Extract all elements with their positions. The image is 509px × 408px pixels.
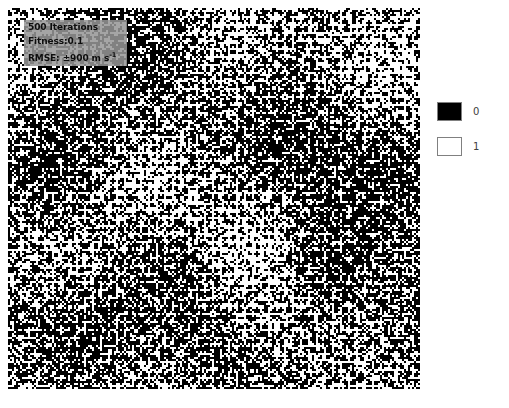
figure-root: 500 Iterations Fitness:0.1 RMSE: ±900 m … (0, 0, 509, 408)
legend-label-one: 1 (473, 137, 479, 156)
annotation-panel: 500 Iterations Fitness:0.1 RMSE: ±900 m … (24, 20, 127, 66)
legend-swatch-one (437, 137, 462, 156)
annotation-rmse-text: RMSE: ±900 m s (28, 53, 109, 63)
annotation-rmse-exponent: -1 (109, 51, 116, 59)
annotation-iterations: 500 Iterations (28, 21, 124, 34)
legend-label-zero: 0 (473, 102, 479, 121)
annotation-rmse: RMSE: ±900 m s-1 (28, 49, 124, 65)
annotation-fitness: Fitness:0.1 (28, 35, 124, 48)
legend-item-zero: 0 (437, 101, 499, 121)
legend-swatch-zero (437, 102, 462, 121)
legend: 0 1 (437, 101, 499, 156)
legend-item-one: 1 (437, 136, 499, 156)
raster-map-panel: 500 Iterations Fitness:0.1 RMSE: ±900 m … (8, 8, 420, 389)
